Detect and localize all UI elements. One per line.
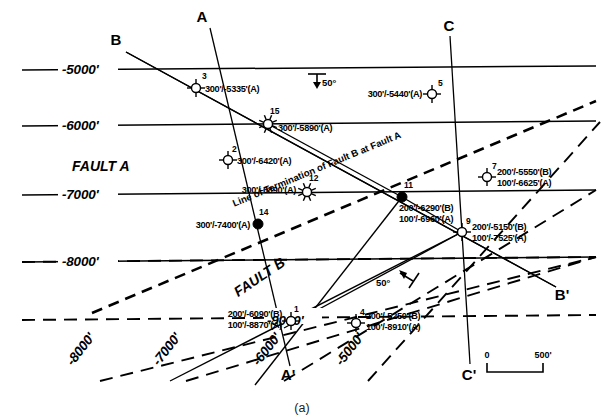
- well-circle-icon: [458, 228, 467, 237]
- structure-contour-map: Line of Termination of Fault B at Fault …: [0, 0, 604, 419]
- solid-contour-labels-top: -5000' -6000' -7000' -8000' -9000': [62, 62, 305, 328]
- well-data-7-line-1: 200'/-5550'(B): [497, 167, 552, 177]
- termination-dashed-line: [92, 101, 596, 313]
- scale-label-max: 500': [534, 350, 551, 360]
- dip-label-fault-b: 50°: [376, 277, 391, 288]
- well-14[interactable]: 14300'/-7400'(A): [196, 207, 269, 230]
- well-data-1-line-2: 100'/-8870'(A): [228, 320, 283, 330]
- xsec-label-a: A: [197, 8, 208, 25]
- xsec-label-a-prime: A': [281, 366, 295, 383]
- scale-bar-group: 0 500': [484, 350, 551, 372]
- xsec-line-cc: [450, 36, 470, 364]
- well-symbol-filled-icon: [397, 192, 407, 202]
- sunburst-ray-icon: [303, 196, 305, 201]
- xsec-label-c: C: [444, 17, 455, 34]
- well-data-12-line-1: 300'/-6890'(A): [242, 185, 297, 195]
- well-circle-icon: [224, 156, 233, 165]
- dip-symbol-strike: 50°: [308, 74, 337, 89]
- figure-caption: (a): [294, 401, 309, 415]
- fault-dip-arrowhead-icon: [399, 270, 407, 279]
- fault-a-label: FAULT A: [72, 158, 130, 174]
- well-circle-icon: [264, 120, 273, 129]
- sunburst-ray-icon: [259, 120, 264, 122]
- scale-label-zero: 0: [484, 350, 489, 360]
- well-data-4-line-2: 100'/-8910'(A): [366, 322, 421, 332]
- well-data-5-line-1: 300'/-5440'(A): [368, 89, 423, 99]
- fault-dip-tick-icon: [409, 273, 419, 288]
- line-of-termination: Line of Termination of Fault B at Fault …: [92, 101, 596, 313]
- well-5[interactable]: 5300'/-5440'(A): [368, 78, 443, 103]
- well-data-3-line-1: 300'/-5335'(A): [205, 84, 260, 94]
- well-data-4-line-1: 200'/-5250'(B): [366, 311, 421, 321]
- filled-circle-icon: [397, 192, 407, 202]
- well-number-2: 2: [232, 144, 237, 154]
- fault-name-labels: FAULT A FAULT B: [72, 158, 288, 300]
- contour-dlabel-8000: -8000': [63, 329, 98, 368]
- well-number-3: 3: [202, 71, 207, 81]
- well-data-15-line-1: 300'/-5890'(A): [278, 123, 333, 133]
- well-data-7-line-2: 100'/-6625'(A): [497, 178, 552, 188]
- well-number-5: 5: [438, 78, 443, 88]
- well-11[interactable]: 11200'/-6290'(B)100'/-6960'(A): [397, 180, 454, 224]
- contour-dlabel-6000: -6000': [249, 329, 284, 368]
- contour-label-7000-t: -7000': [62, 187, 100, 202]
- well-number-1: 1: [294, 304, 299, 314]
- well-symbol-filled-icon: [253, 219, 263, 229]
- well-circle-icon: [192, 84, 201, 93]
- well-number-12: 12: [309, 173, 319, 183]
- well-data-11-line-2: 100'/-6960'(A): [399, 214, 454, 224]
- sunburst-ray-icon: [309, 183, 311, 188]
- sunburst-ray-icon: [298, 194, 303, 196]
- sunburst-ray-icon: [303, 183, 305, 188]
- well-data-9-line-1: 200'/-5150'(B): [472, 222, 527, 232]
- well-circle-icon: [352, 319, 361, 328]
- well-number-14: 14: [259, 207, 269, 217]
- fault-traces: [126, 52, 556, 385]
- well-data-14-line-1: 300'/-7400'(A): [196, 220, 251, 230]
- termination-label: Line of Termination of Fault B at Fault …: [231, 129, 403, 209]
- well-7[interactable]: 7200'/-5550'(B)100'/-6625'(A): [478, 161, 552, 188]
- dashed-contour-labels: -8000' -7000' -6000' -5000': [63, 329, 367, 368]
- well-9[interactable]: 9200'/-5150'(B)100'/-7525'(A): [453, 216, 527, 243]
- map-canvas: Line of Termination of Fault B at Fault …: [0, 0, 604, 419]
- contour-label-8000-t: -8000': [62, 254, 100, 269]
- contour-dlabel-7000: -7000': [149, 329, 184, 368]
- well-circle-icon: [303, 188, 312, 197]
- well-data-11-line-1: 200'/-6290'(B): [399, 203, 454, 213]
- contour-label-5000-t: -5000': [62, 62, 100, 77]
- dip-arrowhead-icon: [313, 82, 321, 89]
- sunburst-ray-icon: [270, 128, 272, 133]
- well-circle-icon: [287, 317, 296, 326]
- cross-section-labels: A A' B B' C C': [111, 8, 570, 383]
- sunburst-ray-icon: [272, 120, 277, 122]
- contour-label-6000-t: -6000': [62, 118, 100, 133]
- well-2[interactable]: 2300'/-6420'(A): [219, 144, 292, 169]
- contour-dashed-5000: [368, 122, 600, 381]
- well-data-2-line-1: 300'/-6420'(A): [237, 156, 292, 166]
- well-circle-icon: [428, 90, 437, 99]
- sunburst-ray-icon: [311, 194, 316, 196]
- fault-b-trace-sw2: [255, 197, 402, 385]
- xsec-label-b: B: [111, 31, 122, 48]
- well-number-11: 11: [404, 180, 413, 190]
- well-15[interactable]: 15300'/-5890'(A): [259, 106, 332, 133]
- sunburst-ray-icon: [264, 115, 266, 120]
- filled-circle-icon: [253, 219, 263, 229]
- sunburst-ray-icon: [309, 196, 311, 201]
- sunburst-ray-icon: [311, 188, 316, 190]
- well-number-4: 4: [360, 307, 365, 317]
- well-number-15: 15: [270, 106, 280, 116]
- well-data-1-line-1: 200'/-6090'(B): [228, 309, 283, 319]
- scale-bar-icon: [487, 363, 543, 372]
- sunburst-ray-icon: [298, 188, 303, 190]
- dip-label-top: 50°: [322, 77, 337, 88]
- well-data-9-line-2: 100'/-7525'(A): [472, 233, 527, 243]
- sunburst-ray-icon: [264, 128, 266, 133]
- xsec-label-c-prime: C': [462, 366, 476, 383]
- xsec-label-b-prime: B': [555, 286, 569, 303]
- well-3[interactable]: 3300'/-5335'(A): [187, 71, 260, 97]
- well-circle-icon: [483, 173, 492, 182]
- well-number-9: 9: [466, 216, 471, 226]
